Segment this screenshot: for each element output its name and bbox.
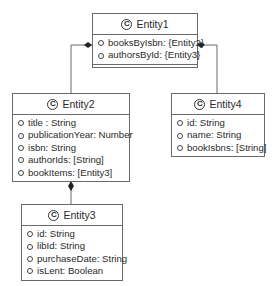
- attribute: isbn: String: [18, 142, 129, 154]
- attribute: purchaseDate: String: [27, 253, 122, 265]
- class-c-icon: C: [47, 99, 58, 110]
- class-entity4[interactable]: C Entity4 id: String name: String bookIs…: [171, 93, 265, 157]
- operation-compartment: [13, 182, 129, 187]
- visibility-circle-icon: [18, 170, 24, 176]
- attribute: title : String: [18, 117, 129, 129]
- attribute: bookItems: [Entity3]: [18, 167, 129, 179]
- class-entity2[interactable]: C Entity2 title : String publicationYear…: [12, 93, 130, 182]
- visibility-circle-icon: [27, 256, 33, 262]
- visibility-circle-icon: [18, 120, 24, 126]
- class-entity3[interactable]: C Entity3 id: String libId: String purch…: [21, 204, 123, 281]
- visibility-circle-icon: [27, 231, 33, 237]
- visibility-circle-icon: [27, 244, 33, 250]
- visibility-circle-icon: [18, 157, 24, 163]
- attribute: libId: String: [27, 240, 122, 252]
- attribute: publicationYear: Number: [18, 129, 129, 141]
- attribute-compartment: title : String publicationYear: Number i…: [13, 115, 129, 182]
- attribute: booksByIsbn: {Entity2}: [98, 37, 197, 49]
- class-name: Entity3: [63, 209, 95, 221]
- class-name: Entity2: [62, 98, 94, 110]
- visibility-circle-icon: [177, 120, 183, 126]
- class-c-icon: C: [121, 19, 132, 30]
- composition-diamond-icon: [84, 42, 92, 48]
- class-header: C Entity4: [172, 94, 264, 115]
- class-c-icon: C: [194, 99, 205, 110]
- attribute: name: String: [177, 129, 264, 141]
- class-name: Entity4: [209, 98, 241, 110]
- visibility-circle-icon: [177, 145, 183, 151]
- class-entity1[interactable]: C Entity1 booksByIsbn: {Entity2} authors…: [92, 13, 198, 68]
- attribute: isLent: Boolean: [27, 265, 122, 277]
- visibility-circle-icon: [18, 133, 24, 139]
- attribute-compartment: booksByIsbn: {Entity2} authorsById: {Ent…: [93, 35, 197, 65]
- visibility-circle-icon: [18, 145, 24, 151]
- visibility-circle-icon: [177, 133, 183, 139]
- attribute: id: String: [27, 228, 122, 240]
- class-header: C Entity1: [93, 14, 197, 35]
- attribute: authorsById: {Entity3}: [98, 49, 197, 61]
- class-name: Entity1: [136, 18, 168, 30]
- attribute: authorIds: [String]: [18, 154, 129, 166]
- class-header: C Entity2: [13, 94, 129, 115]
- visibility-circle-icon: [27, 268, 33, 274]
- operation-compartment: [172, 157, 264, 162]
- attribute: bookIsbns: [String]: [177, 142, 264, 154]
- class-c-icon: C: [48, 210, 59, 221]
- operation-compartment: [22, 281, 122, 286]
- composition-line-entity1-entity2: [71, 45, 92, 93]
- visibility-circle-icon: [98, 53, 104, 59]
- attribute: id: String: [177, 117, 264, 129]
- attribute-compartment: id: String libId: String purchaseDate: S…: [22, 226, 122, 281]
- operation-compartment: [93, 65, 197, 70]
- class-header: C Entity3: [22, 205, 122, 226]
- attribute-compartment: id: String name: String bookIsbns: [Stri…: [172, 115, 264, 157]
- visibility-circle-icon: [98, 40, 104, 46]
